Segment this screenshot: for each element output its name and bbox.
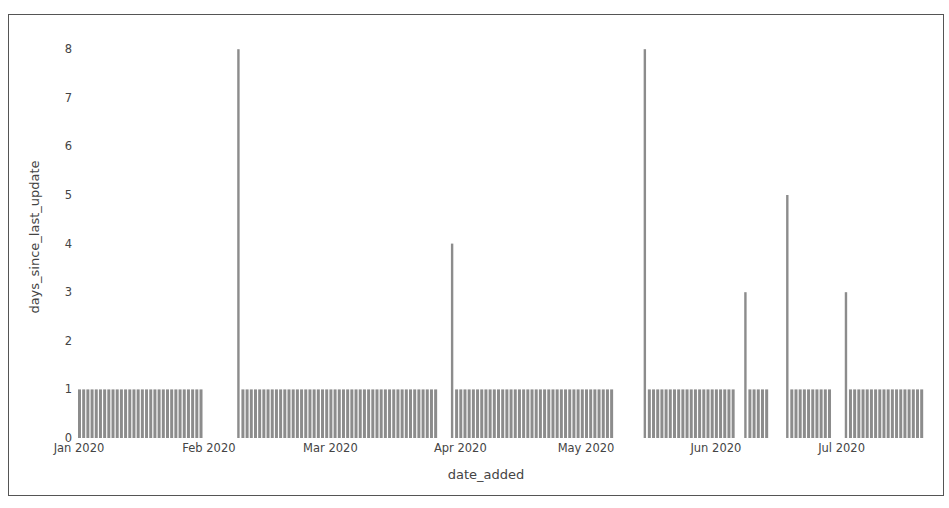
bar <box>686 389 689 438</box>
bar <box>405 389 408 438</box>
bar <box>304 389 307 438</box>
bar <box>535 389 538 438</box>
bar <box>246 389 249 438</box>
x-axis-ticks: Jan 2020Feb 2020Mar 2020Apr 2020May 2020… <box>53 441 865 455</box>
bar <box>149 389 152 438</box>
bar <box>459 389 462 438</box>
bar <box>581 389 584 438</box>
bar <box>598 389 601 438</box>
bar <box>707 389 710 438</box>
bar <box>669 389 672 438</box>
bar <box>262 389 265 438</box>
bar <box>493 389 496 438</box>
bar <box>388 389 391 438</box>
bar <box>606 389 609 438</box>
bar <box>556 389 559 438</box>
bar <box>589 389 592 438</box>
x-tick-label: Feb 2020 <box>182 441 235 455</box>
y-tick-label: 1 <box>65 382 72 396</box>
bar <box>811 389 814 438</box>
bar <box>794 389 797 438</box>
bar <box>153 389 156 438</box>
bar <box>531 389 534 438</box>
y-tick-label: 6 <box>65 139 72 153</box>
bar <box>313 389 316 438</box>
bar <box>162 389 165 438</box>
bar <box>116 389 119 438</box>
bar <box>329 389 332 438</box>
bar <box>765 389 768 438</box>
bar <box>107 389 110 438</box>
bar <box>753 389 756 438</box>
bar <box>807 389 810 438</box>
bar <box>912 389 915 438</box>
bar <box>895 389 898 438</box>
bar <box>455 389 458 438</box>
bar <box>501 389 504 438</box>
bar <box>522 389 525 438</box>
bar <box>539 389 542 438</box>
bar <box>241 389 244 438</box>
bar <box>112 389 115 438</box>
bar <box>727 389 730 438</box>
bar <box>891 389 894 438</box>
bar <box>338 389 341 438</box>
bar <box>862 389 865 438</box>
bar <box>99 389 102 438</box>
bar <box>103 389 106 438</box>
bar <box>845 292 847 438</box>
bar <box>124 389 127 438</box>
bar <box>275 389 278 438</box>
bar <box>325 389 328 438</box>
bar <box>413 389 416 438</box>
bar <box>610 389 613 438</box>
bar <box>367 389 370 438</box>
bar <box>723 389 726 438</box>
bar <box>271 389 274 438</box>
bar <box>166 389 169 438</box>
bar <box>665 389 668 438</box>
bar <box>472 389 475 438</box>
bar <box>476 389 479 438</box>
bar <box>321 389 324 438</box>
bar <box>363 389 366 438</box>
bar <box>78 389 81 438</box>
bar <box>711 389 714 438</box>
bar <box>748 389 751 438</box>
bar <box>857 389 860 438</box>
bar <box>384 389 387 438</box>
bar <box>346 389 349 438</box>
bar <box>602 389 605 438</box>
bar-chart: 012345678 Jan 2020Feb 2020Mar 2020Apr 20… <box>9 15 945 497</box>
bar <box>564 389 567 438</box>
bar <box>874 389 877 438</box>
bar <box>375 389 378 438</box>
chart-frame: 012345678 Jan 2020Feb 2020Mar 2020Apr 20… <box>8 14 944 496</box>
bar <box>577 389 580 438</box>
x-axis-label: date_added <box>448 467 525 482</box>
bar <box>288 389 291 438</box>
bar <box>371 389 374 438</box>
y-tick-label: 4 <box>65 237 72 251</box>
bar <box>401 389 404 438</box>
bar <box>430 389 433 438</box>
bar <box>179 389 182 438</box>
bar <box>409 389 412 438</box>
bar <box>359 389 362 438</box>
bar <box>296 389 299 438</box>
bar <box>463 389 466 438</box>
x-tick-label: Jun 2020 <box>689 441 741 455</box>
bar <box>434 389 437 438</box>
bar <box>187 389 190 438</box>
bar <box>903 389 906 438</box>
bar <box>350 389 353 438</box>
y-axis-ticks: 012345678 <box>65 42 72 445</box>
bar <box>137 389 140 438</box>
bar <box>484 389 487 438</box>
bar <box>82 389 85 438</box>
bar <box>468 389 471 438</box>
bar <box>451 244 453 438</box>
bar <box>660 389 663 438</box>
bar <box>916 389 919 438</box>
bar <box>853 389 856 438</box>
